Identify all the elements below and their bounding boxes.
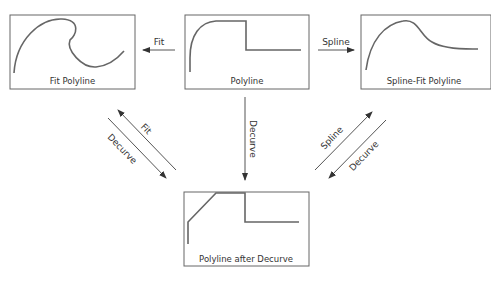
svg-text:Decurve: Decurve (105, 132, 139, 166)
svg-text:Spline: Spline (319, 124, 346, 151)
spline-fit-polyline-label: Spline-Fit Polyline (387, 76, 462, 86)
polyline-box: Polyline (185, 15, 309, 89)
spline-fit-polyline-box: Spline-Fit Polyline (361, 15, 491, 89)
svg-text:Fit: Fit (154, 37, 165, 47)
polyline-label: Polyline (231, 76, 264, 86)
svg-text:Spline: Spline (322, 37, 350, 47)
left-diagonal-arrows: Fit Decurve (105, 110, 176, 178)
right-diagonal-arrows: Spline Decurve (315, 112, 386, 178)
spline-arrow: Spline (318, 37, 354, 50)
fit-polyline-box: Fit Polyline (10, 15, 135, 89)
decurve-down-arrow: Decurve (245, 97, 258, 180)
decurve-polyline-label: Polyline after Decurve (199, 254, 293, 264)
fit-polyline-label: Fit Polyline (50, 76, 95, 86)
polyline-edit-diagram: Fit Polyline Polyline Spline-Fit Polylin… (0, 0, 491, 281)
svg-text:Decurve: Decurve (347, 139, 381, 173)
decurve-polyline-box: Polyline after Decurve (184, 192, 309, 266)
svg-text:Decurve: Decurve (248, 120, 258, 158)
fit-arrow: Fit (143, 37, 175, 50)
